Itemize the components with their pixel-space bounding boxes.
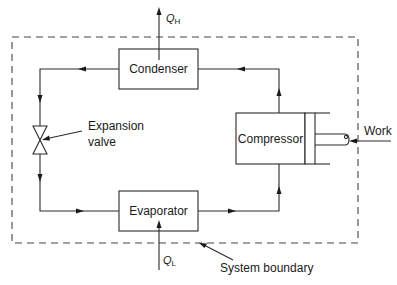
ql-subscript: L bbox=[172, 259, 177, 268]
work-label: Work bbox=[364, 124, 393, 138]
arrow-valve-leader-icon bbox=[42, 136, 50, 141]
arrow-left-top-icon bbox=[78, 67, 86, 72]
evaporator-label: Evaporator bbox=[129, 204, 188, 218]
arrow-up-right-upper-icon bbox=[277, 88, 282, 96]
svg-text:QL: QL bbox=[163, 254, 177, 268]
compressor-label: Compressor bbox=[238, 132, 303, 146]
piston-icon bbox=[305, 113, 315, 164]
work-input: Work bbox=[349, 124, 393, 144]
arrow-down-left-lower-icon bbox=[38, 174, 43, 182]
expansion-valve-label-line2: valve bbox=[88, 135, 116, 149]
valve-icon bbox=[33, 126, 47, 140]
refrigeration-cycle-diagram: Condenser QH Evaporator QL Expansion val… bbox=[0, 0, 397, 285]
expansion-valve: Expansion valve bbox=[33, 119, 144, 154]
qh-subscript: H bbox=[175, 17, 181, 26]
condenser-label: Condenser bbox=[129, 62, 188, 76]
arrow-boundary-leader-icon bbox=[199, 243, 207, 248]
arrow-work-icon bbox=[349, 139, 357, 144]
arrow-right-bottom-icon bbox=[76, 209, 84, 214]
arrow-up-right-lower-icon bbox=[277, 186, 282, 194]
system-boundary-label: System boundary bbox=[220, 261, 313, 275]
system-boundary-annotation: System boundary bbox=[199, 243, 313, 275]
arrow-right-bottom-right-icon bbox=[228, 209, 236, 214]
arrow-up-qh-icon bbox=[157, 7, 162, 15]
arrow-down-left-icon bbox=[38, 95, 43, 103]
expansion-valve-label-line1: Expansion bbox=[88, 119, 144, 133]
svg-text:QH: QH bbox=[166, 12, 181, 26]
compressor: Compressor bbox=[236, 113, 349, 164]
piston-rod-icon bbox=[315, 134, 349, 145]
arrow-left-top-right-icon bbox=[237, 67, 245, 72]
